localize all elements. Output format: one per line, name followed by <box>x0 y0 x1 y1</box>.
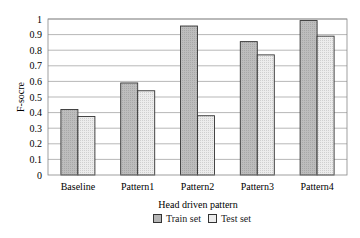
bar-test-set <box>78 117 95 176</box>
bar-train-set <box>300 21 317 175</box>
bar-test-set <box>198 116 215 175</box>
bar-train-set <box>121 83 138 175</box>
y-tick-label: 0.1 <box>30 154 43 165</box>
y-tick-label: 0.6 <box>30 76 43 87</box>
legend-swatch-test <box>208 214 217 223</box>
y-tick-label: 1 <box>37 14 42 25</box>
x-category-label: Pattern2 <box>181 181 214 192</box>
bar-test-set <box>317 36 334 175</box>
legend: Train set Test set <box>153 213 251 224</box>
y-tick-label: 0.7 <box>30 60 43 71</box>
y-axis-label: F-socre <box>15 81 26 112</box>
bars <box>61 21 334 175</box>
x-category-label: Pattern4 <box>300 181 333 192</box>
bar-train-set <box>61 109 78 175</box>
x-category-label: Baseline <box>61 181 96 192</box>
y-tick-label: 0.2 <box>30 138 43 149</box>
bar-test-set <box>138 91 155 175</box>
legend-label-train: Train set <box>166 213 201 224</box>
x-axis-label: Head driven pattern <box>158 199 237 210</box>
bar-test-set <box>257 55 274 175</box>
legend-swatch-train <box>153 214 162 223</box>
legend-label-test: Test set <box>221 213 251 224</box>
y-tick-label: 0.5 <box>30 92 43 103</box>
y-tick-label: 0 <box>37 170 42 181</box>
bar-train-set <box>240 42 257 175</box>
y-tick-label: 0.9 <box>30 29 43 40</box>
x-category-label: Pattern3 <box>241 181 274 192</box>
bar-train-set <box>181 26 198 175</box>
y-tick-label: 0.4 <box>30 107 43 118</box>
x-category-label: Pattern1 <box>121 181 154 192</box>
y-axis-ticks: 00.10.20.30.40.50.60.70.80.91 <box>30 14 43 181</box>
bar-chart: 00.10.20.30.40.50.60.70.80.91 BaselinePa… <box>0 0 360 238</box>
y-tick-label: 0.3 <box>30 123 43 134</box>
y-tick-label: 0.8 <box>30 45 43 56</box>
x-axis-categories: BaselinePattern1Pattern2Pattern3Pattern4 <box>61 181 334 192</box>
